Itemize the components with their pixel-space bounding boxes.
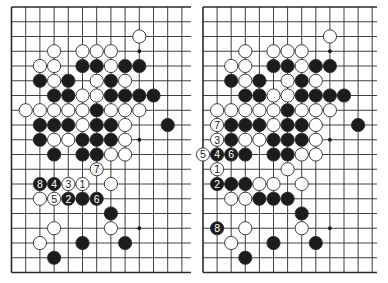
- move-number: 7: [214, 119, 220, 131]
- board-svg: 73546128: [194, 0, 388, 283]
- black-stone: [239, 118, 252, 131]
- black-stone: [133, 89, 146, 102]
- black-stone: [239, 89, 252, 102]
- white-stone: [119, 118, 132, 131]
- white-stone: [119, 74, 132, 87]
- black-stone: [309, 59, 322, 72]
- white-stone: [239, 192, 252, 205]
- white-stone: [48, 74, 61, 87]
- white-stone: [90, 74, 103, 87]
- black-stone: [104, 89, 117, 102]
- white-stone: [225, 236, 238, 249]
- black-stone-move-8: 8: [33, 177, 46, 190]
- black-stone: [295, 133, 308, 146]
- white-stone: [104, 45, 117, 58]
- move-number: 5: [51, 193, 57, 205]
- move-number: 3: [65, 178, 71, 190]
- black-stone: [267, 59, 280, 72]
- move-number: 2: [65, 193, 71, 205]
- black-stone: [281, 133, 294, 146]
- white-stone: [104, 59, 117, 72]
- black-stone: [104, 118, 117, 131]
- white-stone: [211, 104, 224, 117]
- move-number: 2: [214, 178, 220, 190]
- move-number: 3: [214, 134, 220, 146]
- black-stone: [281, 104, 294, 117]
- white-stone: [323, 30, 336, 43]
- black-stone: [33, 133, 46, 146]
- white-stone: [281, 45, 294, 58]
- black-stone: [323, 89, 336, 102]
- white-stone: [133, 30, 146, 43]
- move-number: 4: [51, 178, 57, 190]
- white-stone: [104, 222, 117, 235]
- black-stone: [309, 89, 322, 102]
- black-stone: [90, 148, 103, 161]
- black-stone: [48, 118, 61, 131]
- black-stone: [104, 133, 117, 146]
- black-stone-move-2: 2: [211, 177, 224, 190]
- black-stone: [295, 207, 308, 220]
- black-stone: [267, 148, 280, 161]
- black-stone: [33, 118, 46, 131]
- star-point: [137, 138, 141, 142]
- black-stone: [281, 148, 294, 161]
- black-stone: [309, 236, 322, 249]
- white-stone-move-1: 1: [76, 177, 89, 190]
- white-stone: [76, 118, 89, 131]
- black-stone: [62, 89, 75, 102]
- black-stone: [62, 118, 75, 131]
- white-stone-move-5: 5: [48, 192, 61, 205]
- black-stone: [281, 192, 294, 205]
- white-stone: [76, 45, 89, 58]
- move-number: 4: [214, 148, 220, 160]
- black-stone: [104, 74, 117, 87]
- black-stone: [323, 59, 336, 72]
- white-stone: [253, 133, 266, 146]
- black-stone: [337, 89, 350, 102]
- star-point: [328, 226, 332, 230]
- white-stone: [62, 133, 75, 146]
- white-stone: [104, 177, 117, 190]
- white-stone: [295, 59, 308, 72]
- black-stone-move-6: 6: [225, 148, 238, 161]
- black-stone: [33, 74, 46, 87]
- black-stone: [267, 236, 280, 249]
- white-stone: [33, 59, 46, 72]
- white-stone: [323, 104, 336, 117]
- white-stone: [48, 45, 61, 58]
- white-stone-move-7: 7: [211, 118, 224, 131]
- black-stone: [253, 89, 266, 102]
- white-stone: [225, 192, 238, 205]
- black-stone: [281, 118, 294, 131]
- black-stone: [104, 207, 117, 220]
- white-stone: [295, 45, 308, 58]
- black-stone: [267, 133, 280, 146]
- move-number: 7: [94, 163, 100, 175]
- white-stone: [267, 89, 280, 102]
- star-point: [137, 226, 141, 230]
- white-stone: [239, 104, 252, 117]
- black-stone: [76, 148, 89, 161]
- black-stone: [253, 118, 266, 131]
- black-stone: [225, 133, 238, 146]
- black-stone: [48, 89, 61, 102]
- white-stone: [267, 118, 280, 131]
- white-stone: [253, 177, 266, 190]
- black-stone: [295, 118, 308, 131]
- white-stone: [309, 74, 322, 87]
- white-stone: [133, 104, 146, 117]
- white-stone: [281, 89, 294, 102]
- white-stone: [239, 45, 252, 58]
- black-stone-move-8: 8: [211, 222, 224, 235]
- white-stone: [90, 45, 103, 58]
- black-stone: [239, 177, 252, 190]
- white-stone: [104, 104, 117, 117]
- white-stone: [295, 104, 308, 117]
- white-stone: [48, 222, 61, 235]
- white-stone: [48, 59, 61, 72]
- white-stone-move-5: 5: [196, 148, 209, 161]
- white-stone: [281, 163, 294, 176]
- black-stone: [225, 118, 238, 131]
- black-stone: [119, 89, 132, 102]
